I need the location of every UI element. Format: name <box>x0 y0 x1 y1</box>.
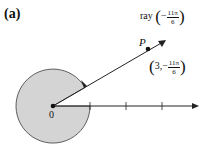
point-p-label: P <box>139 36 146 48</box>
point-coords-label: (3,−11π6) <box>149 57 186 77</box>
origin-label: 0 <box>49 109 54 120</box>
ray-label: ray (−11π6) <box>140 7 185 27</box>
ray-angle-fraction: 11π6 <box>167 9 179 26</box>
coord-angle-fraction: 11π6 <box>168 59 180 76</box>
point-p <box>146 47 151 52</box>
ray-text: ray <box>140 10 153 21</box>
origin-point <box>51 104 56 109</box>
ray-arrowhead-icon <box>158 40 166 47</box>
axis-arrowhead-icon <box>192 103 199 109</box>
